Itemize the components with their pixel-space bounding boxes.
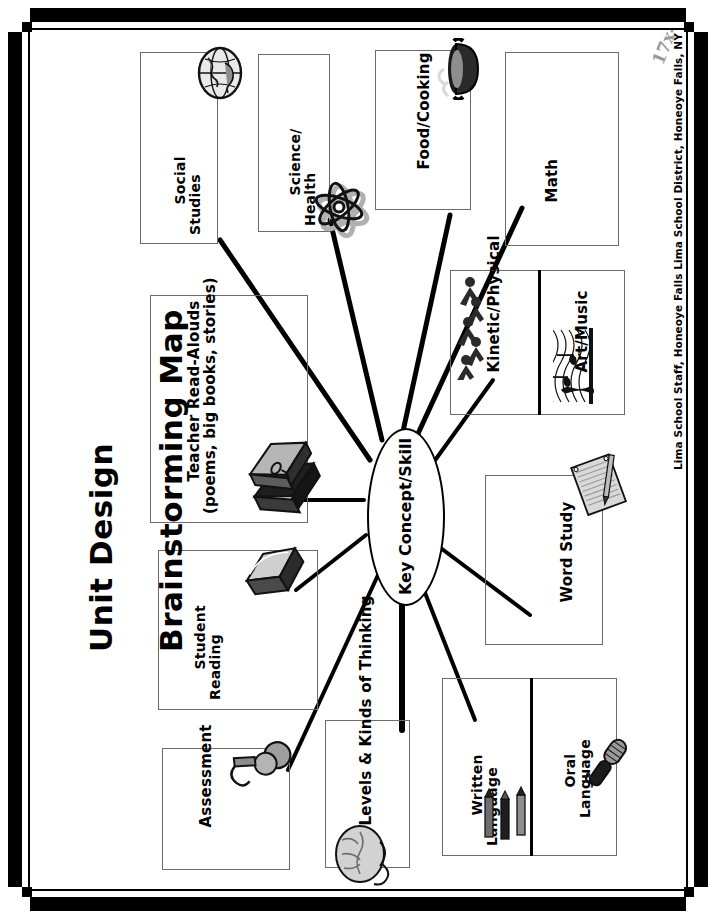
node-label-math: Math [528,159,577,235]
pencils-icon [482,782,536,850]
open-book-icon [242,536,320,618]
connector-science-health [330,220,382,440]
page-title: Unit Design Brainstorming Map [48,309,225,652]
page-title-line2: Brainstorming Map [154,309,189,652]
music-staff-icon [553,312,629,420]
credit-line: Lima School Staff, Honeoye Falls Lima Sc… [672,33,684,470]
connector-food-cooking [402,215,450,436]
worksheet-page: SocialStudies Science/Health [0,0,716,919]
frame-notch-top-right-b [692,8,708,32]
frame-notch-bottom-right-b [692,887,708,911]
magnifier-icon [222,730,308,800]
notepad-pencil-icon [568,450,640,526]
people-running-icon [450,270,506,380]
node-label-levels-thinking: Levels & Kinds of Thinking [342,595,391,858]
globe-icon [195,45,245,101]
atom-icon [312,180,370,238]
page-title-line1: Unit Design [84,309,119,652]
brain-icon [330,820,410,886]
divider-kinetic-art [538,270,541,415]
stacked-books-icon [238,430,330,530]
microphone-icon [578,730,634,800]
cooking-pot-icon [428,38,494,100]
center-node-label: Key Concept/Skill [396,438,415,595]
node-label-social-studies: SocialStudies [158,156,218,235]
brainstorming-map-canvas: SocialStudies Science/Health [30,30,686,889]
